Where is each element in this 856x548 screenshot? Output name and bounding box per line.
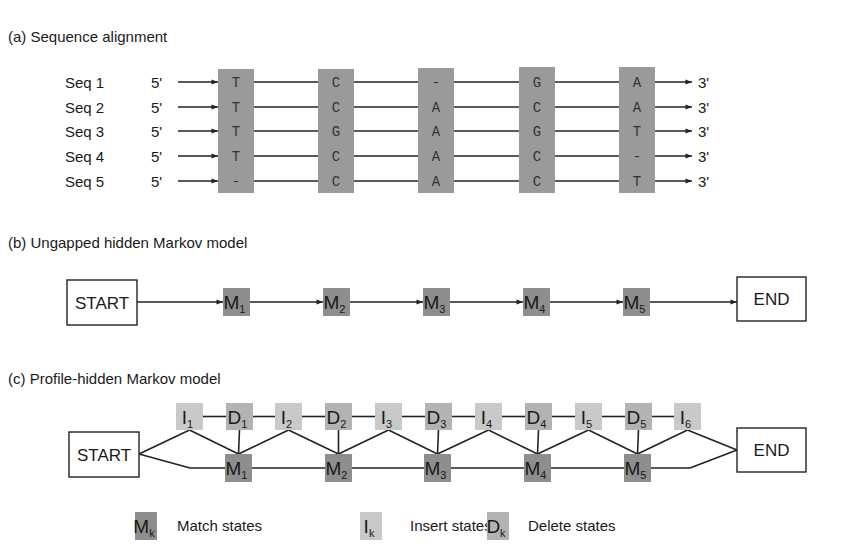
three-prime-label: 3' bbox=[698, 74, 709, 91]
end-box-label: END bbox=[754, 441, 790, 460]
state-index: 2 bbox=[341, 469, 347, 481]
legend-item-match: MkMatch states bbox=[133, 512, 262, 540]
residue: C bbox=[533, 100, 541, 116]
state-index: 4 bbox=[540, 418, 546, 430]
state-index: k bbox=[500, 527, 506, 539]
delete-state-4: D4 bbox=[525, 403, 552, 430]
end-box: END bbox=[737, 277, 806, 321]
match-state-2: M2 bbox=[323, 288, 350, 316]
match-legend-swatch: Mk bbox=[133, 512, 157, 540]
five-prime-label: 5' bbox=[151, 123, 162, 140]
state-index: 4 bbox=[486, 418, 492, 430]
three-prime-label: 3' bbox=[698, 148, 709, 165]
state-index: 6 bbox=[685, 418, 691, 430]
residue: C bbox=[332, 100, 340, 116]
state-index: 4 bbox=[540, 469, 546, 481]
residue: T bbox=[232, 75, 240, 91]
residue: C bbox=[533, 149, 541, 165]
three-prime-label: 3' bbox=[698, 173, 709, 190]
three-prime-label: 3' bbox=[698, 99, 709, 116]
insert-state-2: I2 bbox=[275, 403, 302, 430]
match-state-3: M3 bbox=[423, 288, 450, 316]
sequence-alignment-panel: Seq 15'3'TC-GASeq 25'3'TCACASeq 35'3'TGA… bbox=[65, 67, 709, 193]
delete-state-3: D3 bbox=[425, 403, 452, 430]
residue: T bbox=[633, 174, 641, 190]
residue: A bbox=[633, 75, 642, 91]
residue: C bbox=[332, 149, 340, 165]
legend-label: Insert states bbox=[410, 517, 492, 534]
state-index: 2 bbox=[340, 418, 346, 430]
profile-hmm-panel: STARTENDI1D1I2D2I3D3I4D4I5D5I6M1M2M3M4M5 bbox=[69, 403, 806, 482]
end-box-label: END bbox=[754, 290, 790, 309]
state-index: 5 bbox=[586, 418, 592, 430]
panel-a-title: (a) Sequence alignment bbox=[8, 28, 168, 45]
residue: G bbox=[533, 124, 541, 140]
insert-state-4: I4 bbox=[475, 403, 502, 430]
state-index: 3 bbox=[440, 469, 446, 481]
state-index: k bbox=[149, 527, 155, 539]
match-state-4: M4 bbox=[524, 454, 551, 482]
state-index: 5 bbox=[640, 418, 646, 430]
start-box-label: START bbox=[75, 294, 129, 313]
match-state-1: M1 bbox=[223, 288, 250, 316]
five-prime-label: 5' bbox=[151, 74, 162, 91]
three-prime-label: 3' bbox=[698, 123, 709, 140]
sequence-label: Seq 5 bbox=[65, 173, 104, 190]
delete-state-2: D2 bbox=[325, 403, 352, 430]
sequence-label: Seq 2 bbox=[65, 99, 104, 116]
state-index: 2 bbox=[339, 303, 345, 315]
residue: T bbox=[232, 100, 240, 116]
residue: A bbox=[432, 174, 441, 190]
sequence-row: Seq 25'3'TCACA bbox=[65, 99, 709, 116]
legend-item-insert: IkInsert states bbox=[360, 512, 492, 540]
end-box: END bbox=[737, 428, 806, 472]
match-state-3: M3 bbox=[424, 454, 451, 482]
insert-state-6: I6 bbox=[674, 403, 701, 430]
insert-state-3: I3 bbox=[375, 403, 402, 430]
match-state-2: M2 bbox=[325, 454, 352, 482]
delete-state-1: D1 bbox=[226, 403, 253, 430]
legend-item-delete: DkDelete states bbox=[486, 512, 615, 540]
delete-state-5: D5 bbox=[625, 403, 652, 430]
residue: T bbox=[633, 124, 641, 140]
panel-b-title: (b) Ungapped hidden Markov model bbox=[8, 234, 247, 251]
residue: - bbox=[633, 149, 641, 165]
state-legend: MkMatch statesIkInsert statesDkDelete st… bbox=[133, 512, 615, 540]
panel-c-title: (c) Profile-hidden Markov model bbox=[8, 370, 221, 387]
start-box-label: START bbox=[77, 446, 131, 465]
hmm-diagram: (a) Sequence alignment (b) Ungapped hidd… bbox=[0, 0, 856, 548]
match-state-5: M5 bbox=[624, 454, 651, 482]
state-index: 1 bbox=[239, 303, 245, 315]
insert-state-5: I5 bbox=[575, 403, 602, 430]
sequence-label: Seq 4 bbox=[65, 148, 104, 165]
residue: G bbox=[533, 75, 541, 91]
state-index: 3 bbox=[386, 418, 392, 430]
start-box: START bbox=[69, 432, 139, 477]
sequence-label: Seq 1 bbox=[65, 74, 104, 91]
start-box: START bbox=[67, 280, 137, 325]
five-prime-label: 5' bbox=[151, 99, 162, 116]
legend-label: Match states bbox=[177, 517, 262, 534]
ungapped-hmm-panel: STARTENDM1M2M3M4M5 bbox=[67, 277, 806, 325]
residue: A bbox=[633, 100, 642, 116]
residue: - bbox=[432, 75, 440, 91]
residue: C bbox=[332, 174, 340, 190]
residue: A bbox=[432, 124, 441, 140]
sequence-row: Seq 45'3'TCAC- bbox=[65, 148, 709, 165]
state-index: 3 bbox=[439, 303, 445, 315]
residue: A bbox=[432, 100, 441, 116]
residue: - bbox=[232, 174, 240, 190]
sequence-row: Seq 15'3'TC-GA bbox=[65, 74, 709, 91]
match-state-4: M4 bbox=[523, 288, 550, 316]
state-index: 4 bbox=[539, 303, 545, 315]
state-index: 1 bbox=[241, 418, 247, 430]
state-index: 5 bbox=[640, 469, 646, 481]
residue: T bbox=[232, 149, 240, 165]
state-index: k bbox=[369, 527, 375, 539]
residue: C bbox=[533, 174, 541, 190]
state-index: 5 bbox=[639, 303, 645, 315]
legend-label: Delete states bbox=[528, 517, 616, 534]
five-prime-label: 5' bbox=[151, 173, 162, 190]
state-index: 3 bbox=[440, 418, 446, 430]
match-state-1: M1 bbox=[225, 454, 252, 482]
